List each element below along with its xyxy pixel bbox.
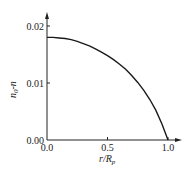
- x-ticks: 0.00.51.0: [41, 137, 175, 153]
- y-axis-title: n0-n: [7, 81, 20, 98]
- x-axis-arrow-icon: [175, 138, 182, 142]
- y-tick-label: 0.01: [27, 78, 45, 89]
- x-axis-title: r/Rp: [99, 153, 116, 166]
- x-tick-label: 1.0: [162, 142, 175, 153]
- x-tick-label: 0.0: [41, 142, 54, 153]
- data-curve: [47, 37, 168, 140]
- chart: 0.000.010.02 0.00.51.0 r/Rp n0-n: [0, 0, 186, 178]
- x-tick-label: 0.5: [101, 142, 114, 153]
- y-tick-label: 0.02: [27, 21, 45, 32]
- y-axis-arrow-icon: [45, 12, 49, 19]
- y-ticks: 0.000.010.02: [27, 21, 51, 146]
